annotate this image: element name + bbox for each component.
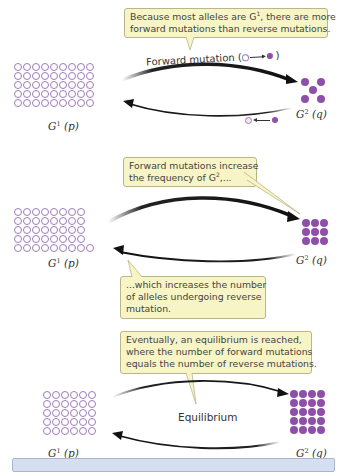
arrowhead [123, 99, 134, 108]
arrowhead [112, 431, 123, 440]
callout-pointer [128, 260, 142, 277]
callout-pointer [186, 373, 196, 404]
reverse-mutation-arrow [130, 104, 292, 116]
reverse-mutation-arrow [120, 252, 296, 261]
arrowhead [113, 245, 124, 255]
arrowhead [277, 388, 289, 397]
arrowhead [286, 74, 298, 84]
callout-pointer [186, 37, 194, 50]
forward-mutation-arrow [112, 381, 282, 397]
forward-mutation-arrow [108, 198, 292, 222]
reverse-mutation-arrow [120, 436, 280, 448]
figure-caption-bar [12, 458, 335, 472]
forward-mutation-arrow [122, 64, 290, 80]
